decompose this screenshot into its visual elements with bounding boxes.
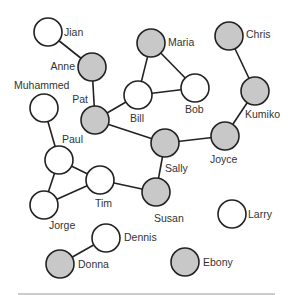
- node-donna: [46, 250, 74, 278]
- node-label-paul: Paul: [62, 133, 83, 145]
- node-pat: [81, 106, 109, 134]
- node-label-larry: Larry: [248, 208, 273, 220]
- node-label-chris: Chris: [246, 28, 271, 40]
- node-label-sally: Sally: [165, 162, 189, 174]
- node-bob: [181, 74, 209, 102]
- node-label-donna: Donna: [78, 258, 109, 270]
- node-label-ebony: Ebony: [203, 256, 234, 268]
- node-paul: [45, 146, 73, 174]
- node-dennis: [92, 224, 120, 252]
- node-anne: [78, 53, 106, 81]
- node-label-anne: Anne: [50, 60, 75, 72]
- node-label-jorge: Jorge: [49, 219, 75, 231]
- node-bill: [124, 81, 152, 109]
- node-joyce: [211, 122, 239, 150]
- node-ebony: [171, 248, 199, 276]
- node-label-tim: Tim: [95, 197, 112, 209]
- social-network-diagram: JianAnneMuhammedPatMariaBillBobChrisKumi…: [0, 0, 288, 295]
- node-susan: [142, 178, 170, 206]
- node-label-maria: Maria: [168, 36, 194, 48]
- node-muhammed: [30, 94, 58, 122]
- node-sally: [151, 129, 179, 157]
- node-label-pat: Pat: [72, 93, 88, 105]
- node-jian: [34, 18, 62, 46]
- node-larry: [218, 200, 246, 228]
- node-label-susan: Susan: [154, 212, 184, 224]
- node-chris: [215, 22, 243, 50]
- node-label-dennis: Dennis: [124, 231, 157, 243]
- node-label-kumiko: Kumiko: [245, 108, 280, 120]
- node-maria: [137, 29, 165, 57]
- node-label-joyce: Joyce: [210, 153, 238, 165]
- node-label-jian: Jian: [64, 26, 83, 38]
- node-jorge: [30, 191, 58, 219]
- node-kumiko: [241, 77, 269, 105]
- node-label-muhammed: Muhammed: [14, 79, 70, 91]
- node-label-bill: Bill: [130, 112, 144, 124]
- node-label-bob: Bob: [185, 103, 204, 115]
- node-tim: [86, 166, 114, 194]
